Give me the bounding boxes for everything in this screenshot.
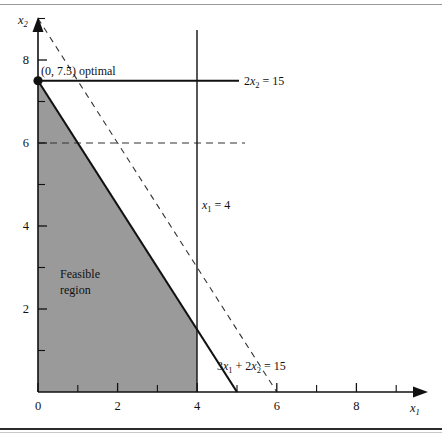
x-tick-label: 2 <box>114 399 120 413</box>
label-constraint-3x1-2x2-15: 3x1 + 2x2 = 15 <box>217 359 286 375</box>
x-axis-arrowhead <box>413 387 428 398</box>
y-tick-label: 6 <box>23 136 29 150</box>
optimal-point-label: (0, 7.5) optimal <box>41 64 116 78</box>
feasible-region-label-line1: Feasible <box>60 267 100 281</box>
label-constraint-x1-4: x1 = 4 <box>201 198 230 214</box>
x-tick-label: 4 <box>194 399 201 413</box>
label-tail: = 15 <box>261 359 286 373</box>
x-axis-label-sub: 1 <box>416 407 420 417</box>
label-plus-coefficient: + 2 <box>233 359 252 373</box>
y-tick-label: 2 <box>23 302 29 316</box>
lp-graph: 0 2 4 6 8 2 4 6 8 x2 x1 (0, 7.5) optimal… <box>0 0 442 442</box>
figure-container: 0 2 4 6 8 2 4 6 8 x2 x1 (0, 7.5) optimal… <box>0 0 442 442</box>
y-tick-label: 4 <box>23 219 30 233</box>
x-tick-label: 0 <box>35 399 41 413</box>
x-tick-label: 8 <box>353 399 359 413</box>
y-axis-arrowhead <box>33 17 44 32</box>
label-tail: = 4 <box>212 198 231 212</box>
y-axis-label-sub: 2 <box>24 19 29 29</box>
label-constraint-2x2-15: 2x2 = 15 <box>244 74 284 90</box>
feasible-region-label-line2: region <box>60 283 91 297</box>
x-tick-label: 6 <box>274 399 280 413</box>
y-axis-label: x2 <box>17 13 29 29</box>
x-axis-label: x1 <box>409 401 420 417</box>
label-tail: = 15 <box>260 74 285 88</box>
feasible-region-shape <box>38 81 197 392</box>
y-tick-label: 8 <box>23 53 29 67</box>
